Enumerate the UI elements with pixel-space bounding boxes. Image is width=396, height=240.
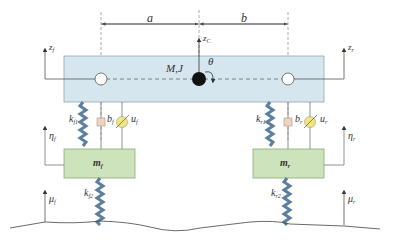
front-spring-label: kf1 [69, 114, 78, 125]
rear-damper-icon [284, 118, 292, 126]
rear-spring-label: kr1 [256, 114, 266, 125]
diagram-graphics [0, 0, 396, 240]
road-profile [10, 221, 380, 231]
zc-label: zC [203, 34, 211, 44]
front-spring-icon [80, 102, 86, 146]
rear-actuator-label: ur [320, 114, 327, 125]
dimension-a-label: a [147, 12, 153, 24]
front-damper-label: bf [107, 114, 114, 125]
theta-label: θ [208, 56, 213, 67]
front-hinge-point [95, 73, 107, 85]
front-damper-icon [97, 118, 105, 126]
rear-mass-label: mr [280, 158, 290, 169]
front-mass-label: mf [93, 158, 103, 169]
front-suspension [45, 102, 135, 225]
front-road-input-label: μf [49, 194, 56, 205]
rear-eta-label: ηr [348, 131, 355, 142]
front-tire-spring-label: kf2 [84, 188, 93, 199]
front-eta-label: ηf [49, 131, 56, 142]
zr-label: zr [348, 43, 354, 53]
front-tire-spring-icon [97, 178, 103, 225]
body-mass-inertia-label: M,J [166, 63, 183, 74]
rear-hinge-point [282, 73, 294, 85]
rear-damper-label: br [295, 114, 302, 125]
rear-road-input-label: μr [348, 194, 355, 205]
rear-tire-spring-label: kr2 [271, 188, 281, 199]
rear-tire-spring-icon [284, 178, 290, 225]
half-car-diagram: a b M,J θ zC zf zr kf1 bf uf ηf mf kf2 μ… [0, 0, 396, 240]
rear-spring-icon [267, 102, 273, 146]
zf-label: zf [49, 43, 54, 53]
front-actuator-label: uf [131, 114, 138, 125]
dimension-b-label: b [241, 12, 247, 24]
center-of-gravity [192, 72, 206, 86]
